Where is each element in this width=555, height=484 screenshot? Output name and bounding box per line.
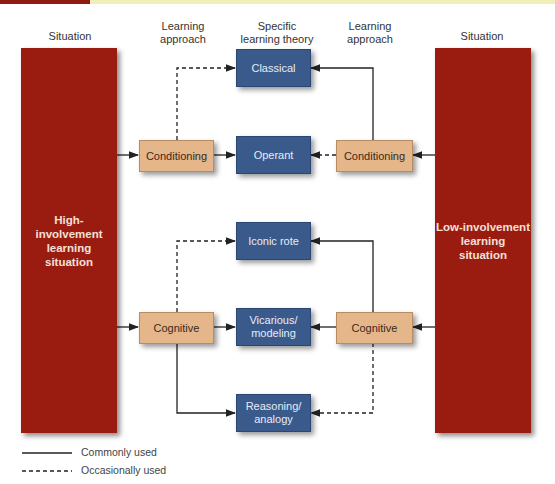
- left-conditioning-box: Conditioning: [139, 140, 214, 172]
- high-involvement-situation: High-involvement learning situation: [21, 48, 117, 433]
- legend-solid-label: Commonly used: [81, 446, 157, 458]
- iconic-rote-box: Iconic rote: [236, 222, 311, 260]
- low-involvement-situation: Low-involvement learning situation: [435, 48, 531, 433]
- right-cognitive-box: Cognitive: [336, 312, 413, 344]
- operant-box: Operant: [236, 136, 311, 174]
- classical-box: Classical: [236, 49, 311, 87]
- right-conditioning-box: Conditioning: [336, 140, 413, 172]
- reasoning-analogy-box: Reasoning/ analogy: [236, 394, 311, 432]
- vicarious-modeling-box: Vicarious/ modeling: [236, 308, 311, 346]
- legend-dashed-label: Occasionally used: [81, 464, 166, 476]
- left-cognitive-box: Cognitive: [139, 312, 214, 344]
